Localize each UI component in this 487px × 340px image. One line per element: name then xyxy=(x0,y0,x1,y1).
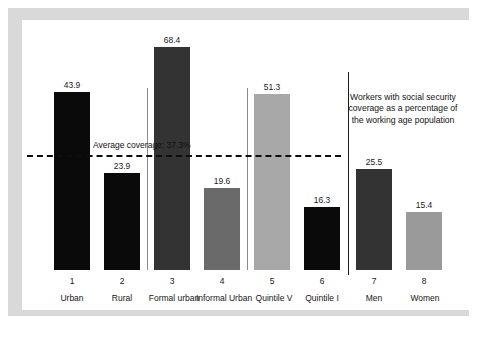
bar-informal-urban: 19.6 xyxy=(204,188,240,270)
bar-quintile-v: 51.3 xyxy=(254,94,290,270)
bar-rect-4 xyxy=(204,188,240,270)
axis-label-formal-urban: Formal urban xyxy=(149,293,200,303)
bar-women: 15.4 xyxy=(406,212,442,270)
bar-formal-urban: 68.4 xyxy=(154,47,190,270)
bar-rect-5 xyxy=(254,94,290,270)
average-coverage-line xyxy=(27,155,341,157)
bar-rect-6 xyxy=(304,207,340,270)
bar-chart-plot: 43.9 23.9 68.4 19.6 51.3 16.3 xyxy=(0,0,487,340)
bar-value-6: 16.3 xyxy=(314,195,331,205)
chart-figure: 43.9 23.9 68.4 19.6 51.3 16.3 xyxy=(0,0,487,340)
bar-value-8: 15.4 xyxy=(416,200,433,210)
bar-men: 25.5 xyxy=(356,169,392,270)
average-coverage-label: Average coverage: 37.3% xyxy=(93,140,191,150)
axis-label-women: Women xyxy=(410,293,439,303)
bar-urban: 43.9 xyxy=(54,92,90,270)
axis-index-8: 8 xyxy=(422,276,427,286)
axis-label-quintile-i: Quintile I xyxy=(305,293,339,303)
bar-value-3: 68.4 xyxy=(164,35,181,45)
axis-index-3: 3 xyxy=(170,276,175,286)
chart-annotation: Workers with social security coverage as… xyxy=(347,92,459,126)
bar-rect-8 xyxy=(406,212,442,270)
axis-label-urban: Urban xyxy=(60,293,83,303)
axis-index-2: 2 xyxy=(120,276,125,286)
group-separator-2 xyxy=(247,88,248,270)
bar-value-2: 23.9 xyxy=(114,161,131,171)
bar-rect-2 xyxy=(104,173,140,270)
axis-index-1: 1 xyxy=(70,276,75,286)
bar-rect-3 xyxy=(154,47,190,270)
bar-rect-1 xyxy=(54,92,90,270)
bar-quintile-i: 16.3 xyxy=(304,207,340,270)
bar-value-1: 43.9 xyxy=(64,80,81,90)
bar-value-4: 19.6 xyxy=(214,176,231,186)
bar-rect-7 xyxy=(356,169,392,270)
axis-index-7: 7 xyxy=(372,276,377,286)
axis-label-informal-urban: Informal Urban xyxy=(196,293,252,303)
axis-label-men: Men xyxy=(366,293,383,303)
bar-value-7: 25.5 xyxy=(366,157,383,167)
axis-label-quintile-v: Quintile V xyxy=(256,293,293,303)
axis-index-6: 6 xyxy=(320,276,325,286)
bar-value-5: 51.3 xyxy=(264,82,281,92)
axis-index-4: 4 xyxy=(220,276,225,286)
bar-rural: 23.9 xyxy=(104,173,140,270)
group-separator-1 xyxy=(147,88,148,270)
axis-label-rural: Rural xyxy=(112,293,132,303)
axis-index-5: 5 xyxy=(270,276,275,286)
